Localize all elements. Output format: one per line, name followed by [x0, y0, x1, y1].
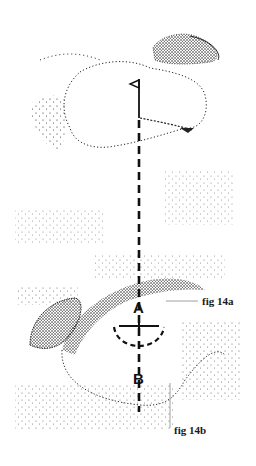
fairway-stipple — [15, 170, 235, 280]
point-b-label: B — [133, 370, 144, 387]
flagstick-icon — [130, 79, 139, 118]
fig-14a-label: fig 14a — [202, 295, 233, 307]
golf-hole-diagram — [0, 0, 256, 466]
upper-green — [30, 34, 219, 150]
fig-14b-label: fig 14b — [174, 424, 206, 436]
point-a-label: A — [133, 299, 144, 316]
bunker-top — [153, 34, 217, 64]
